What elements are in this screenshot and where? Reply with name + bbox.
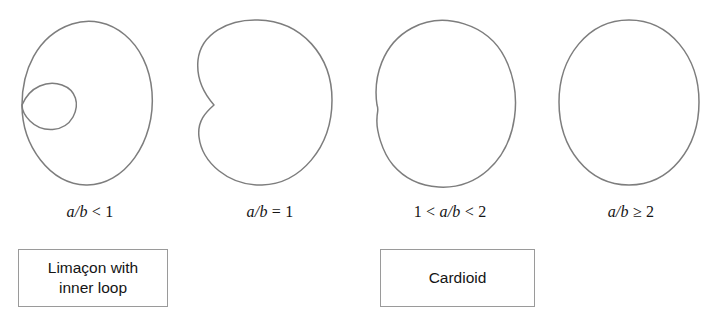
curve-dimpled-limacon [360,0,540,200]
ratio-suffix-3: ≥ 2 [633,203,654,220]
ratio-label-2: 1 < a/b < 2 [360,203,540,221]
ratio-variable-1: a/b [247,203,268,220]
curve-cardioid [180,0,360,200]
ratio-suffix-2: < 2 [465,203,487,220]
ratio-prefix-2: 1 < [414,203,436,220]
panel-cardioid: a/b = 1 Cardioid [180,0,360,329]
ratio-suffix-0: < 1 [92,203,114,220]
outer-loop-path [22,21,152,185]
ratio-variable-2: a/b [439,203,460,220]
curve-limacon-with-inner-loop [0,0,180,200]
dimpled-limacon-path [376,21,515,188]
cardioid-path [198,20,332,185]
panel-limacon-inner-loop: a/b < 1 Limaçon withinner loop [0,0,180,329]
inner-loop-path [22,83,76,129]
ratio-variable-3: a/b [608,203,629,220]
limacon-classification-figure: a/b < 1 Limaçon withinner loop a/b = 1 C… [0,0,721,329]
ratio-label-3: a/b ≥ 2 [541,203,721,221]
ratio-label-0: a/b < 1 [0,203,180,221]
ratio-variable-0: a/b [67,203,88,220]
curve-convex-limacon [541,0,721,200]
panel-dimpled-limacon: 1 < a/b < 2 Dimpled limaçon [360,0,540,329]
ratio-label-1: a/b = 1 [180,203,360,221]
name-label-0: Limaçon withinner loop [48,258,138,298]
ratio-suffix-1: = 1 [272,203,294,220]
name-box-limacon-inner-loop[interactable]: Limaçon withinner loop [18,249,168,307]
convex-limacon-path [559,20,699,185]
panel-convex-limacon: a/b ≥ 2 Convex limaçon [541,0,721,329]
